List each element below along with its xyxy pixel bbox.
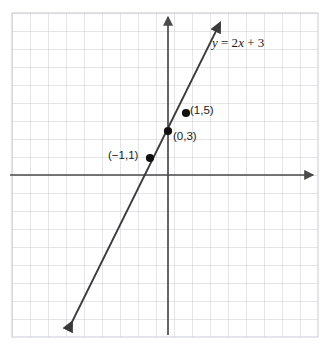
point-label-0-3: (0,3) [173, 131, 197, 143]
coordinate-plane [0, 0, 326, 348]
data-point-0-3 [164, 127, 172, 135]
equation-annotation: y = 2x + 3 [212, 36, 264, 49]
point-label-1-5: (1,5) [190, 105, 214, 117]
data-point-1-5 [182, 109, 190, 117]
point-label-neg1-1: (−1,1) [108, 150, 138, 162]
data-point-neg1-1 [146, 154, 154, 162]
graph-figure: y = 2x + 3 (1,5) (0,3) (−1,1) [0, 0, 326, 348]
equation-constant: + 3 [244, 35, 264, 50]
equation-operator: = 2 [218, 35, 238, 50]
